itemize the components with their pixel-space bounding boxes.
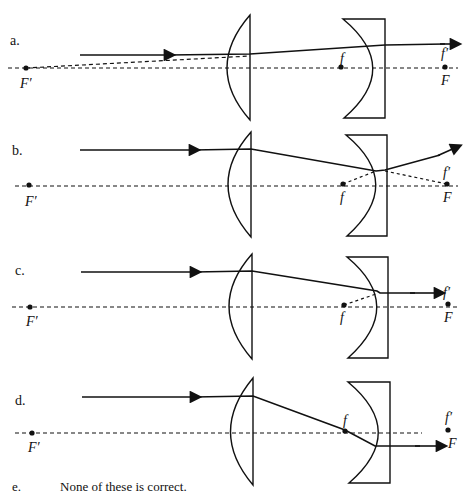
- refracted-ray: [194, 396, 420, 446]
- F-prime-label: F′: [27, 440, 41, 455]
- F-prime-label: F′: [19, 76, 33, 91]
- virtual-ray-to-f: [344, 294, 376, 305]
- ray-arrow: [438, 147, 457, 156]
- F-prime-label: F′: [25, 314, 39, 329]
- f-point: [341, 302, 346, 307]
- converging-lens: [231, 378, 254, 485]
- F-prime-label: F′: [24, 194, 38, 209]
- F-prime-point: [29, 430, 34, 435]
- diverging-lens: [347, 257, 388, 358]
- converging-lens: [228, 132, 251, 237]
- refracted-ray: [168, 44, 445, 55]
- F-point: [445, 301, 450, 306]
- refracted-ray: [194, 271, 415, 293]
- option-a-diagram[interactable]: a. F′ f f′ F: [8, 15, 458, 120]
- F-label: F: [447, 436, 457, 451]
- virtual-ray-to-F: [385, 171, 447, 184]
- F-label: F: [443, 310, 453, 325]
- F-label: F: [440, 73, 450, 88]
- f-label: f: [340, 51, 346, 66]
- option-d-letter: d.: [15, 393, 26, 408]
- option-d-diagram[interactable]: d. F′ f f′ F: [15, 378, 457, 485]
- option-c-diagram[interactable]: c. F′ f f′ F: [12, 254, 458, 359]
- option-c-letter: c.: [15, 263, 25, 278]
- F-prime-point: [26, 182, 31, 187]
- F-point: [445, 427, 450, 432]
- f-label: f: [340, 310, 346, 325]
- f-label: f: [340, 190, 346, 205]
- f-prime-label: f′: [443, 165, 451, 180]
- option-b-letter: b.: [12, 143, 23, 158]
- diverging-lens: [343, 19, 385, 118]
- ray-diagram-figure: a. F′ f f′ F b. F′ f f′: [0, 0, 471, 504]
- f-point: [342, 428, 347, 433]
- F-prime-point: [23, 65, 28, 70]
- F-label: F: [442, 190, 452, 205]
- f-prime-label: f′: [441, 46, 449, 61]
- f-prime-label: f′: [445, 410, 453, 425]
- f-point: [340, 181, 345, 186]
- option-e[interactable]: e.None of these is correct.: [12, 479, 187, 495]
- F-point: [442, 64, 447, 69]
- f-label: f: [343, 413, 349, 428]
- virtual-ray-extension: [26, 56, 250, 68]
- F-prime-point: [27, 304, 32, 309]
- option-a-letter: a.: [10, 33, 20, 48]
- option-e-letter: e.: [12, 479, 60, 495]
- option-e-text: None of these is correct.: [60, 479, 187, 494]
- f-prime-label: f′: [443, 285, 451, 300]
- virtual-ray-to-f: [343, 171, 376, 184]
- option-b-diagram[interactable]: b. F′ f f′ F: [12, 132, 458, 237]
- F-point: [444, 181, 449, 186]
